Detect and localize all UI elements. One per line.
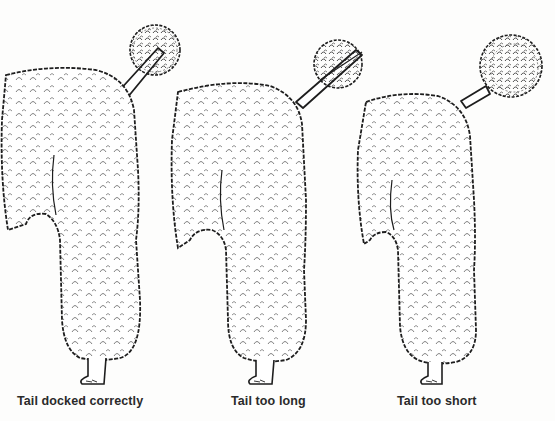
caption-tail-docked-correctly: Tail docked correctly bbox=[17, 394, 143, 408]
caption-tail-too-long: Tail too long bbox=[231, 394, 306, 408]
poodle-too-long bbox=[172, 40, 362, 384]
illustration: Tail docked correctly Tail too long Tail… bbox=[0, 0, 555, 421]
poodle-correct bbox=[2, 25, 180, 384]
foot-too-short bbox=[421, 362, 442, 384]
pompom-too-short bbox=[480, 35, 542, 97]
caption-tail-too-short: Tail too short bbox=[397, 394, 477, 408]
pompom-too-long bbox=[314, 40, 362, 88]
poodle-illustration bbox=[0, 0, 555, 421]
tail-too-short bbox=[461, 86, 490, 108]
pompom-correct bbox=[130, 25, 180, 75]
poodle-too-short bbox=[358, 35, 542, 384]
